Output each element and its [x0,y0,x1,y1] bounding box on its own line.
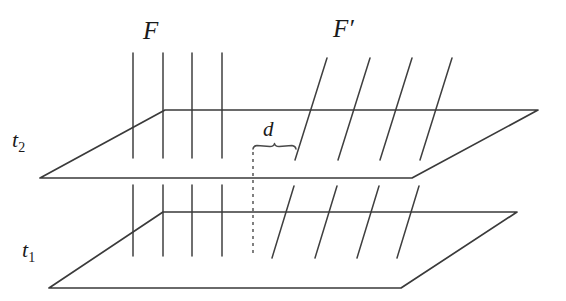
family-f-lower-lines [133,185,222,256]
family-f-prime-upper-lines [295,58,452,160]
plane-t1-label: t1 [22,239,35,265]
distance-label: d [263,119,274,140]
family-f-prime-line-3-lower [357,186,379,258]
family-f-prime-line-1-lower [272,186,294,258]
family-f-prime-line-2-upper [338,58,370,160]
geometry-diagram-svg [0,0,566,301]
family-f-upper-lines [133,53,222,158]
family-f-label: F [143,18,158,43]
plane-t2-outline [40,110,538,178]
family-f-prime-label: F′ [333,16,354,41]
family-f-prime-lower-lines [272,186,419,258]
family-f-prime-line-4-upper [420,58,452,160]
plane-t2-label-subscript: 2 [18,140,25,155]
plane-t2-label: t2 [12,129,25,155]
family-f-prime-line-3-upper [380,58,412,160]
figure-root: F F′ d t2 t1 [0,0,566,301]
plane-t1-label-subscript: 1 [28,250,35,265]
family-f-prime-line-1-upper [295,58,327,160]
family-f-prime-line-2-lower [315,186,337,258]
underbrace-icon [253,144,296,149]
family-f-prime-line-4-lower [397,186,419,258]
